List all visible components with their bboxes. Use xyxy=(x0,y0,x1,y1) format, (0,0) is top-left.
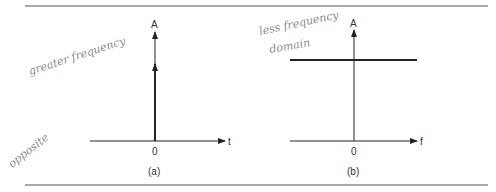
a-axis-label: A xyxy=(151,19,158,30)
panel-b: A f 0 (b) less frequency domain xyxy=(258,8,423,177)
handwritten-note-a-bottom: opposite xyxy=(6,131,52,171)
handwritten-note-a-top: greater frequency xyxy=(27,34,128,78)
t-axis-label: t xyxy=(228,136,231,147)
caption-b: (b) xyxy=(347,166,359,177)
handwritten-note-b-1: less frequency xyxy=(258,8,340,38)
panel-a: A t 0 (a) greater frequency opposite xyxy=(6,19,231,177)
origin-label: 0 xyxy=(351,146,357,157)
caption-a: (a) xyxy=(148,166,160,177)
handwritten-note-b-2: domain xyxy=(268,36,311,56)
origin-label: 0 xyxy=(152,146,158,157)
f-axis-label: f xyxy=(420,136,423,147)
figure-canvas: A t 0 (a) greater frequency opposite A f… xyxy=(0,0,496,192)
a-axis-label: A xyxy=(350,18,357,29)
